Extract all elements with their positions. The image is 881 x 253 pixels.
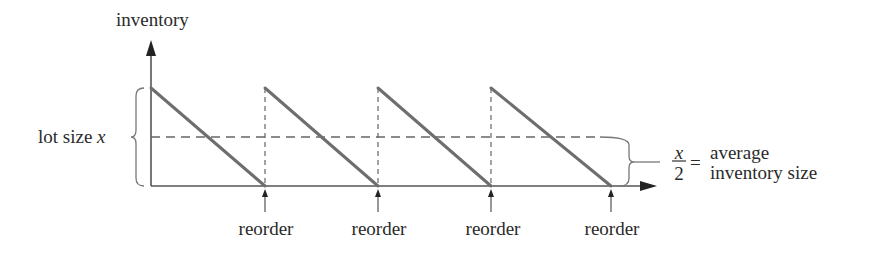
lot-size-brace: [131, 88, 144, 186]
reorder-label: reorder: [352, 219, 407, 238]
y-axis-arrow-icon: [146, 40, 156, 56]
y-axis: [146, 40, 156, 186]
average-label-line2: inventory size: [710, 163, 817, 182]
average-label-line1: average: [710, 143, 769, 162]
inventory-diagram: [0, 0, 881, 253]
reorder-label: reorder: [466, 219, 521, 238]
lot-size-label: lot size x: [38, 127, 106, 146]
fraction-denominator: 2: [671, 164, 687, 183]
lot-size-text: lot size: [38, 126, 92, 147]
x-axis-arrow-icon: [640, 181, 657, 191]
reorder-label: reorder: [585, 219, 640, 238]
reorder-label: reorder: [239, 219, 294, 238]
fraction-numerator: x: [671, 143, 687, 162]
reorder-arrows: [262, 189, 614, 212]
lot-size-var: x: [97, 126, 105, 147]
y-axis-label: inventory: [116, 10, 189, 29]
equals-sign: =: [690, 153, 701, 172]
x-axis: [151, 181, 657, 191]
average-brace: [600, 137, 634, 186]
